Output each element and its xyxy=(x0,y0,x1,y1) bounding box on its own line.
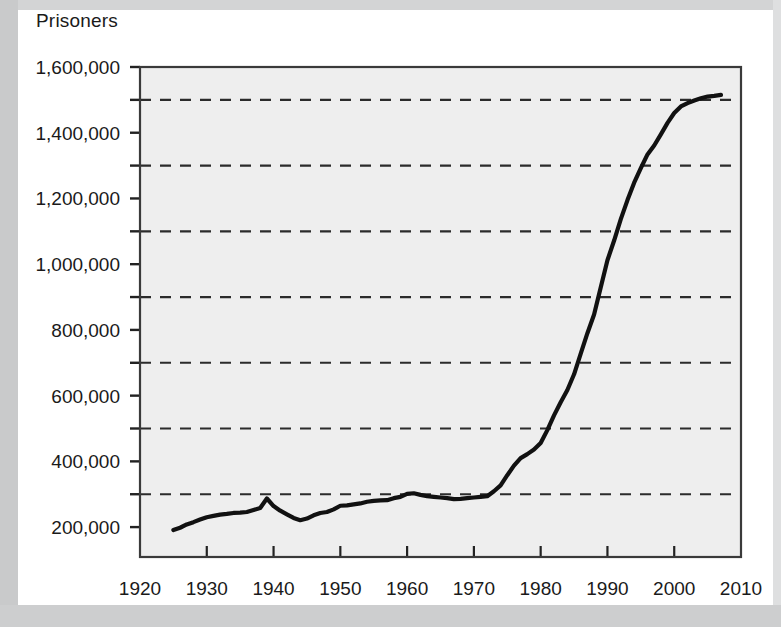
y-axis-ticks xyxy=(130,67,140,527)
x-axis-labels: 1920193019401950196019701980199020002010 xyxy=(119,578,762,599)
x-axis-tick-label: 2000 xyxy=(653,578,695,599)
y-axis-tick-label: 400,000 xyxy=(51,451,120,472)
y-axis-tick-label: 1,000,000 xyxy=(35,254,120,275)
x-axis-tick-label: 1920 xyxy=(119,578,161,599)
x-axis-tick-label: 1960 xyxy=(386,578,428,599)
plot-area-background xyxy=(140,67,741,557)
x-axis-tick-label: 1990 xyxy=(586,578,628,599)
y-axis-tick-label: 1,200,000 xyxy=(35,188,120,209)
x-axis-tick-label: 1950 xyxy=(319,578,361,599)
y-axis-tick-label: 1,400,000 xyxy=(35,123,120,144)
y-axis-tick-label: 1,600,000 xyxy=(35,57,120,78)
x-axis-tick-label: 1980 xyxy=(520,578,562,599)
y-axis-tick-label: 600,000 xyxy=(51,386,120,407)
chart-page: Prisoners 200,000400,000600,000800,0001,… xyxy=(0,0,781,627)
y-axis-labels: 200,000400,000600,000800,0001,000,0001,2… xyxy=(35,57,120,538)
plot-background xyxy=(140,67,741,557)
line-chart: 200,000400,000600,000800,0001,000,0001,2… xyxy=(0,0,781,627)
x-axis-tick-label: 2010 xyxy=(720,578,762,599)
x-axis-tick-label: 1930 xyxy=(186,578,228,599)
y-axis-tick-label: 200,000 xyxy=(51,517,120,538)
x-axis-tick-label: 1940 xyxy=(252,578,294,599)
x-axis-tick-label: 1970 xyxy=(453,578,495,599)
y-axis-tick-label: 800,000 xyxy=(51,320,120,341)
